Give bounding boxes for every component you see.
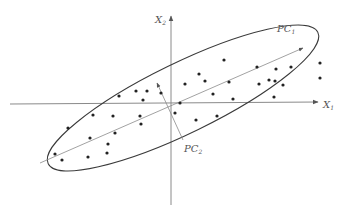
data-point xyxy=(88,136,91,139)
data-point xyxy=(197,72,200,75)
x1-label: X1 xyxy=(322,99,334,111)
data-point xyxy=(113,131,116,134)
data-point xyxy=(141,98,144,101)
data-point xyxy=(318,61,321,64)
pca-diagram: X2 X1 PC1 PC2 xyxy=(0,0,350,216)
data-point xyxy=(273,79,276,82)
data-point xyxy=(53,152,56,155)
data-point xyxy=(66,126,69,129)
x1-axis xyxy=(10,102,318,104)
data-point xyxy=(274,67,277,70)
data-point xyxy=(159,91,162,94)
data-point xyxy=(86,155,89,158)
data-point xyxy=(231,97,234,100)
data-point xyxy=(267,78,270,81)
data-point xyxy=(91,113,94,116)
x2-label: X2 xyxy=(154,14,166,26)
data-point xyxy=(222,58,225,61)
data-point xyxy=(111,114,114,117)
data-point xyxy=(255,65,258,68)
pc2-label: PC2 xyxy=(183,143,202,155)
data-point xyxy=(145,89,148,92)
data-point xyxy=(105,151,108,154)
data-point xyxy=(178,101,181,104)
data-point xyxy=(138,114,141,117)
data-point xyxy=(318,76,321,79)
data-point xyxy=(134,89,137,92)
data-point xyxy=(227,80,230,83)
data-point xyxy=(281,83,284,86)
data-point xyxy=(257,82,260,85)
data-point xyxy=(117,94,120,97)
data-point xyxy=(60,158,63,161)
data-point xyxy=(183,82,186,85)
data-point xyxy=(211,92,214,95)
data-point xyxy=(106,142,109,145)
data-point xyxy=(194,118,197,121)
data-point xyxy=(215,114,218,117)
data-point xyxy=(173,111,176,114)
data-point xyxy=(139,122,142,125)
data-point xyxy=(272,95,275,98)
data-point xyxy=(203,79,206,82)
data-point xyxy=(289,65,292,68)
